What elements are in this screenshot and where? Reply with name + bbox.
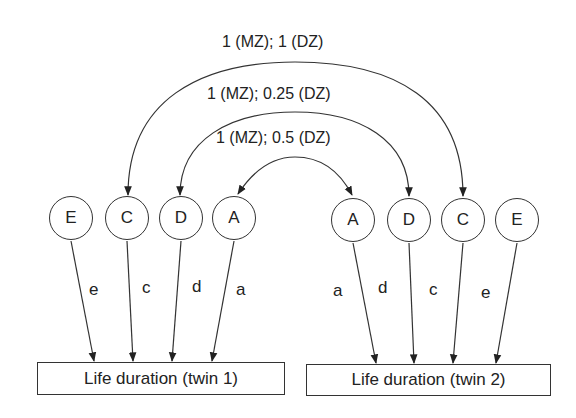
path-label-c-twin2: c	[429, 280, 438, 300]
path-e-twin2	[496, 243, 517, 363]
path-label-a-twin1: a	[236, 280, 245, 300]
correlation-arc-d	[180, 112, 409, 196]
path-a-twin1	[212, 241, 234, 361]
path-c-twin2	[453, 243, 463, 363]
path-label-a-twin2: a	[333, 281, 342, 301]
correlation-arc-a	[238, 157, 352, 195]
correlation-label-d: 1 (MZ); 0.25 (DZ)	[207, 85, 331, 103]
path-d-twin2	[409, 243, 414, 363]
outcome-box-twin2: Life duration (twin 2)	[306, 364, 551, 396]
node-c-twin1: C	[105, 196, 149, 240]
path-e-twin1	[71, 241, 94, 361]
node-c-twin2: C	[441, 198, 485, 242]
node-a-twin2: A	[331, 198, 375, 242]
correlation-label-c: 1 (MZ); 1 (DZ)	[222, 33, 323, 51]
path-a-twin2	[353, 243, 376, 363]
path-d-twin1	[172, 241, 181, 361]
node-d-twin2: D	[387, 198, 431, 242]
path-label-d-twin1: d	[192, 277, 201, 297]
path-label-e-twin1: e	[89, 280, 98, 300]
node-e-twin1: E	[49, 196, 93, 240]
node-d-twin1: D	[159, 196, 203, 240]
path-label-e-twin2: e	[481, 283, 490, 303]
outcome-box-twin1: Life duration (twin 1)	[37, 362, 285, 395]
path-label-d-twin2: d	[378, 278, 387, 298]
node-a-twin1: A	[212, 196, 256, 240]
path-c-twin1	[127, 241, 133, 361]
path-label-c-twin1: c	[142, 278, 151, 298]
correlation-label-a: 1 (MZ); 0.5 (DZ)	[216, 129, 331, 147]
outcome-label-twin2: Life duration (twin 2)	[351, 370, 505, 390]
outcome-label-twin1: Life duration (twin 1)	[84, 369, 238, 389]
node-e-twin2: E	[495, 198, 539, 242]
